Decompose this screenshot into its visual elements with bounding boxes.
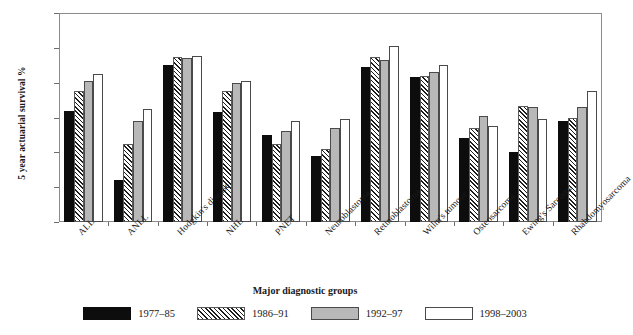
bar [272,144,282,222]
x-tick-mark [405,222,406,226]
bar [281,131,291,222]
legend-item: 1998–2003 [425,307,527,320]
legend-label: 1986–91 [252,308,289,319]
y-axis-title: 5 year actuarial survival % [17,43,27,203]
bar-group [256,13,305,222]
bar [330,128,340,222]
bar [321,149,331,222]
bar [380,60,390,222]
x-axis-title: Major diagnostic groups [0,285,610,296]
legend-item: 1992–97 [311,307,403,320]
chart-legend: 1977–851986–911992–971998–2003 [0,307,610,320]
bar-group [503,13,552,222]
bar [439,65,449,222]
bar-group [59,13,108,222]
bar [459,138,469,222]
bar [420,76,430,222]
bar [192,56,202,222]
legend-swatch [197,307,245,320]
bar [64,111,74,222]
x-tick-mark [306,222,307,226]
bar [213,112,223,222]
bar [577,107,587,222]
bar [518,106,528,222]
bar [311,156,321,222]
legend-label: 1998–2003 [480,308,527,319]
bar [558,121,568,222]
bar [469,128,479,222]
x-tick-mark [256,222,257,226]
bar [370,57,380,222]
x-tick-mark [553,222,554,226]
x-tick-mark [355,222,356,226]
bar-group [158,13,207,222]
bar [262,135,272,222]
legend-swatch [425,307,473,320]
x-tick-mark [158,222,159,226]
bar [133,121,143,222]
x-tick-mark [503,222,504,226]
legend-label: 1977–85 [138,308,175,319]
x-tick-mark [454,222,455,226]
bar [163,65,173,222]
legend-label: 1992–97 [366,308,403,319]
x-tick-mark [108,222,109,226]
bar [479,116,489,222]
bar [173,57,183,222]
bar [232,83,242,222]
bar [528,107,538,222]
bar [389,46,399,222]
bar [123,144,133,222]
y-tick-mark [54,222,59,223]
legend-item: 1977–85 [83,307,175,320]
legend-swatch [311,307,359,320]
bar-group [306,13,355,222]
bar [74,91,84,222]
x-tick-mark [207,222,208,226]
legend-item: 1986–91 [197,307,289,320]
bar [241,81,251,222]
bar [93,74,103,222]
bar-group [108,13,157,222]
bar [182,58,192,222]
bar [114,180,124,222]
bar [509,152,519,222]
legend-swatch [83,307,131,320]
bar [429,72,439,222]
bar [84,81,94,222]
bar-groups [59,13,602,222]
bar [222,91,232,222]
bar [143,109,153,222]
bar [568,118,578,223]
bar [291,121,301,222]
